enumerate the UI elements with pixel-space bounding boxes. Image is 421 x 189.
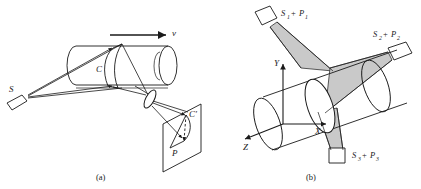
panel-b: S 1 + P 1 S 2 + P 2 — [243, 6, 412, 182]
label-velocity: v — [172, 28, 176, 38]
label-s3-p3: S 3 + P 3 — [352, 150, 379, 162]
label-plane-p: P — [171, 148, 178, 158]
label-s1-p1-s-sub: 1 — [287, 14, 290, 20]
label-s2-p2-s: S — [373, 29, 378, 39]
panel-a-rays-to-plane — [152, 101, 188, 138]
panel-a-light-sheet — [28, 44, 122, 98]
cone-s2 — [325, 52, 392, 113]
label-s3-p3-s: S — [352, 150, 357, 160]
panel-a-image-cone — [170, 115, 190, 148]
diagram-svg: v C S — [0, 0, 421, 189]
label-s2-p2-plus: + — [383, 29, 388, 39]
label-s2-p2-p: P — [390, 29, 396, 39]
panel-a: v C S — [7, 28, 201, 182]
label-s2-p2-s-sub: 2 — [379, 35, 382, 41]
label-s1-p1-p-sub: 1 — [305, 14, 308, 20]
label-s3-p3-plus: + — [362, 150, 367, 160]
axis-label-z: Z — [243, 142, 249, 152]
axis-label-y: Y — [274, 58, 280, 68]
label-source-s: S — [9, 84, 14, 94]
label-s1-p1-p: P — [298, 8, 304, 18]
label-s2-p2: S 2 + P 2 — [373, 29, 400, 41]
cone-s1 — [270, 22, 333, 71]
caption-panel-b: (b) — [306, 172, 316, 182]
label-s1-p1-plus: + — [291, 8, 296, 18]
label-s3-p3-p: P — [369, 150, 375, 160]
source-box-s2 — [388, 42, 412, 60]
label-cone-c: C — [96, 64, 103, 74]
label-image-cone-cprime: C′ — [189, 109, 198, 119]
axis-label-x: X — [314, 126, 321, 136]
label-s1-p1: S 1 + P 1 — [281, 8, 308, 20]
label-s3-p3-p-sub: 3 — [375, 156, 379, 162]
source-box-s3 — [329, 148, 345, 163]
source-box-s1 — [255, 6, 277, 25]
label-s3-p3-s-sub: 3 — [357, 156, 361, 162]
panel-a-source-box — [7, 95, 27, 110]
caption-panel-a: (a) — [96, 172, 106, 182]
label-s1-p1-s: S — [281, 8, 286, 18]
label-s2-p2-p-sub: 2 — [397, 35, 400, 41]
figure-container: v C S — [0, 0, 421, 189]
